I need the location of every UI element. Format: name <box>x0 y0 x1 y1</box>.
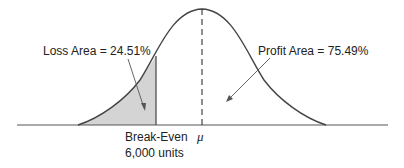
mean-symbol: μ <box>197 129 204 145</box>
loss-area-shade <box>78 56 156 125</box>
profit-area-label: Profit Area = 75.49% <box>258 44 368 58</box>
breakeven-label: Break-Even <box>125 130 188 144</box>
breakeven-units-label: 6,000 units <box>125 146 184 160</box>
breakeven-distribution-diagram: Loss Area = 24.51% Profit Area = 75.49% … <box>0 0 404 168</box>
loss-area-label: Loss Area = 24.51% <box>43 44 151 58</box>
